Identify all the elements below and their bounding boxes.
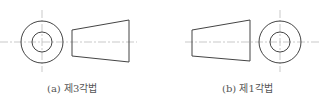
caption-b: (b) 제1각법	[222, 83, 273, 95]
trapezoid-b	[192, 20, 250, 61]
trapezoid-a	[72, 20, 129, 62]
projection-diagram: (a) 제3각법 (b) 제1각법	[0, 0, 319, 104]
caption-a: (a) 제3각법	[47, 83, 97, 95]
panel-b-drawing	[185, 10, 319, 72]
panel-a-drawing	[0, 10, 137, 72]
